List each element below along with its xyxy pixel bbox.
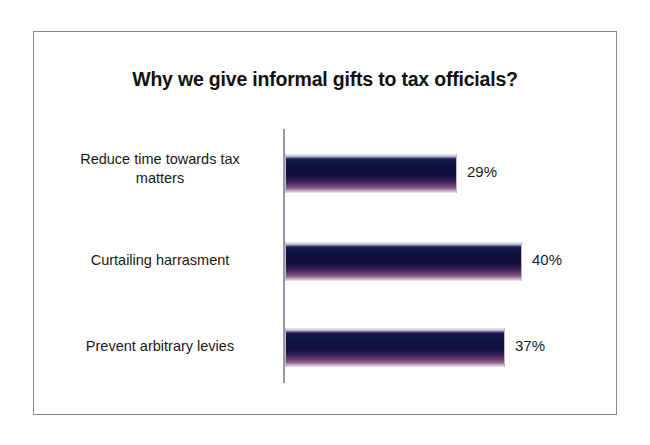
- chart-frame: Why we give informal gifts to tax offici…: [33, 31, 617, 415]
- bar: [285, 154, 457, 193]
- category-label-line-1: Curtailing harrasment: [44, 251, 276, 270]
- category-label: Prevent arbitrary levies: [44, 337, 276, 356]
- bar-value-label: 37%: [515, 337, 545, 354]
- bar-row: Curtailing harrasment 40%: [34, 242, 616, 281]
- bar-row: Reduce time towards tax matters 29%: [34, 154, 616, 193]
- bar-value-label: 40%: [532, 251, 562, 268]
- category-label-line-1: Prevent arbitrary levies: [44, 337, 276, 356]
- bar: [285, 328, 505, 367]
- category-label: Reduce time towards tax matters: [44, 150, 276, 187]
- bar: [285, 242, 522, 281]
- bar-value-label: 29%: [467, 163, 497, 180]
- bar-row: Prevent arbitrary levies 37%: [34, 328, 616, 367]
- plot-area: Reduce time towards tax matters 29% Curt…: [34, 32, 616, 414]
- category-label-line-2: matters: [44, 169, 276, 188]
- category-label: Curtailing harrasment: [44, 251, 276, 270]
- category-label-line-1: Reduce time towards tax: [44, 150, 276, 169]
